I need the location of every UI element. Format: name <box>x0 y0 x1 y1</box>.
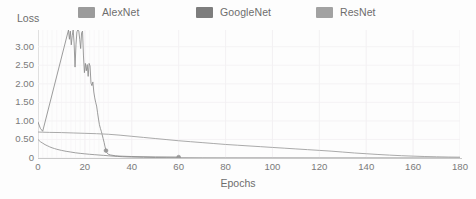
x-tick-label: 0 <box>35 161 40 172</box>
legend-item-alexnet[interactable]: AlexNet <box>78 5 139 19</box>
y-axis-title: Loss <box>17 12 39 24</box>
x-tick-label: 40 <box>126 161 137 172</box>
data-point-marker <box>104 149 108 153</box>
chart-legend: AlexNet GoogleNet ResNet <box>0 5 476 25</box>
y-tick-label: 2.00 <box>15 79 34 89</box>
legend-item-googlenet[interactable]: GoogleNet <box>196 5 271 19</box>
x-tick-label: 180 <box>452 161 468 172</box>
legend-label-resnet: ResNet <box>340 6 376 18</box>
y-tick-label: 1.50 <box>15 97 34 107</box>
y-tick-label: 2.50 <box>15 60 34 70</box>
x-axis-line <box>38 158 462 159</box>
y-axis-ticks: 00.501.001.502.002.503.00 <box>0 30 34 158</box>
x-tick-label: 140 <box>358 161 374 172</box>
plot-svg <box>38 30 460 158</box>
x-tick-label: 120 <box>311 161 327 172</box>
x-axis-title: Epochs <box>0 177 476 189</box>
x-tick-label: 20 <box>80 161 91 172</box>
x-tick-label: 160 <box>405 161 421 172</box>
legend-label-googlenet: GoogleNet <box>220 6 271 18</box>
y-tick-label: 1.00 <box>15 116 34 126</box>
x-tick-label: 60 <box>173 161 184 172</box>
gridlines <box>38 30 460 158</box>
data-point-marker <box>177 155 181 158</box>
legend-swatch-resnet <box>316 7 333 18</box>
y-tick-label: 0 <box>29 153 34 163</box>
y-tick-label: 3.00 <box>15 42 34 52</box>
x-axis-ticks: 020406080100120140160180 <box>38 161 460 175</box>
y-tick-label: 0.50 <box>15 134 34 144</box>
legend-swatch-alexnet <box>78 7 95 18</box>
x-tick-label: 100 <box>264 161 280 172</box>
legend-swatch-googlenet <box>196 7 213 18</box>
chart-figure: AlexNet GoogleNet ResNet Loss Epochs 00.… <box>0 0 476 199</box>
legend-item-resnet[interactable]: ResNet <box>316 5 376 19</box>
legend-label-alexnet: AlexNet <box>102 6 139 18</box>
plot-area <box>38 30 460 158</box>
x-tick-label: 80 <box>220 161 231 172</box>
series-line-resnet <box>38 132 460 157</box>
